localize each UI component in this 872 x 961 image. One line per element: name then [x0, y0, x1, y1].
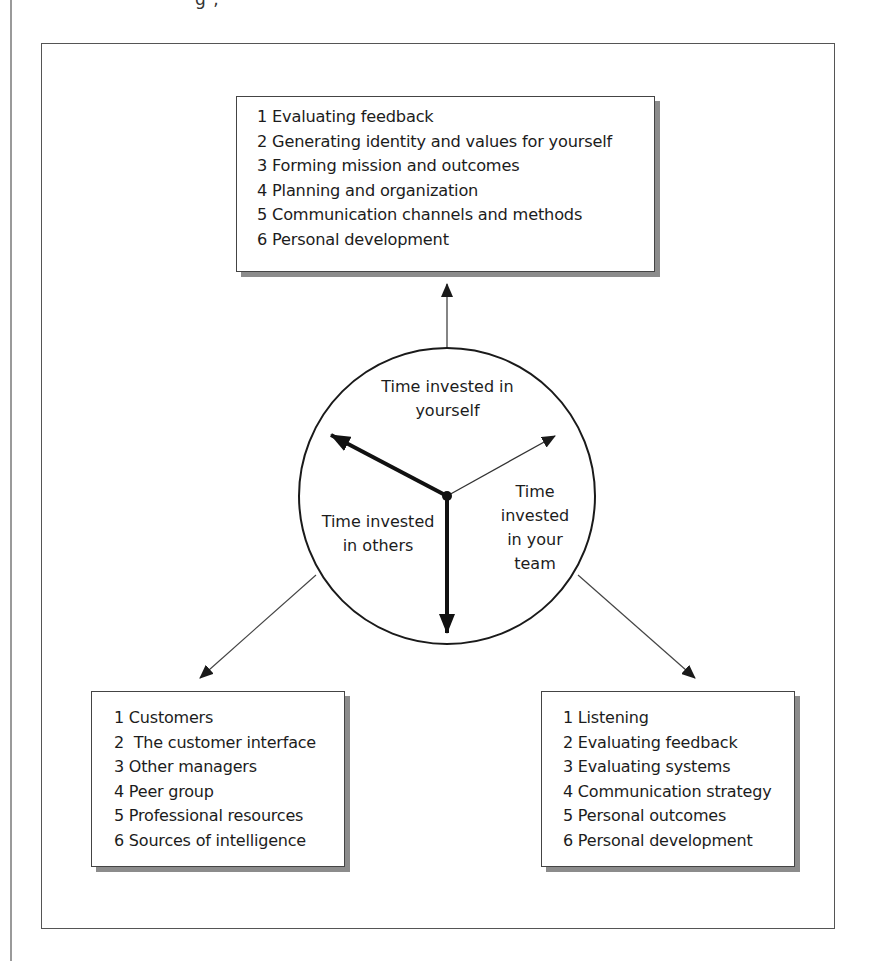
label-time-yourself: Time invested in yourself [370, 375, 525, 423]
label-line: team [514, 554, 556, 573]
label-line: Time invested in [381, 377, 513, 396]
arrow-to-others-box [200, 575, 316, 678]
team-activities-list: 1 Listening 2 Evaluating feedback 3 Eval… [563, 706, 794, 853]
label-line: Time invested [322, 512, 435, 531]
list-item: 4 Planning and organization [257, 179, 654, 204]
yourself-activities-list: 1 Evaluating feedback 2 Generating ident… [257, 105, 654, 252]
list-item: 5 Professional resources [114, 804, 344, 829]
others-activities-list: 1 Customers 2 The customer interface 3 O… [114, 706, 344, 853]
label-line: invested [501, 506, 570, 525]
label-time-team: Time invested in your team [490, 480, 580, 576]
list-item: 4 Peer group [114, 780, 344, 805]
list-item: 1 Listening [563, 706, 794, 731]
team-activities-box: 1 Listening 2 Evaluating feedback 3 Eval… [541, 691, 795, 867]
label-line: in others [343, 536, 414, 555]
hand-others-icon [331, 435, 447, 496]
list-item: 4 Communication strategy [563, 780, 794, 805]
list-item: 3 Forming mission and outcomes [257, 154, 654, 179]
list-item: 6 Personal development [257, 228, 654, 253]
list-item: 1 Customers [114, 706, 344, 731]
clock-center-dot [442, 491, 452, 501]
label-line: in your [507, 530, 563, 549]
label-line: Time [515, 482, 554, 501]
yourself-activities-box: 1 Evaluating feedback 2 Generating ident… [236, 96, 655, 272]
others-activities-box: 1 Customers 2 The customer interface 3 O… [91, 691, 345, 867]
list-item: 5 Communication channels and methods [257, 203, 654, 228]
list-item: 3 Other managers [114, 755, 344, 780]
list-item: 3 Evaluating systems [563, 755, 794, 780]
list-item: 2 Generating identity and values for you… [257, 130, 654, 155]
list-item: 2 Evaluating feedback [563, 731, 794, 756]
list-item: 6 Personal development [563, 829, 794, 854]
list-item: 2 The customer interface [114, 731, 344, 756]
label-line: yourself [415, 401, 479, 420]
list-item: 5 Personal outcomes [563, 804, 794, 829]
arrow-to-team-box [578, 575, 695, 678]
list-item: 1 Evaluating feedback [257, 105, 654, 130]
list-item: 6 Sources of intelligence [114, 829, 344, 854]
label-time-others: Time invested in others [308, 510, 448, 558]
